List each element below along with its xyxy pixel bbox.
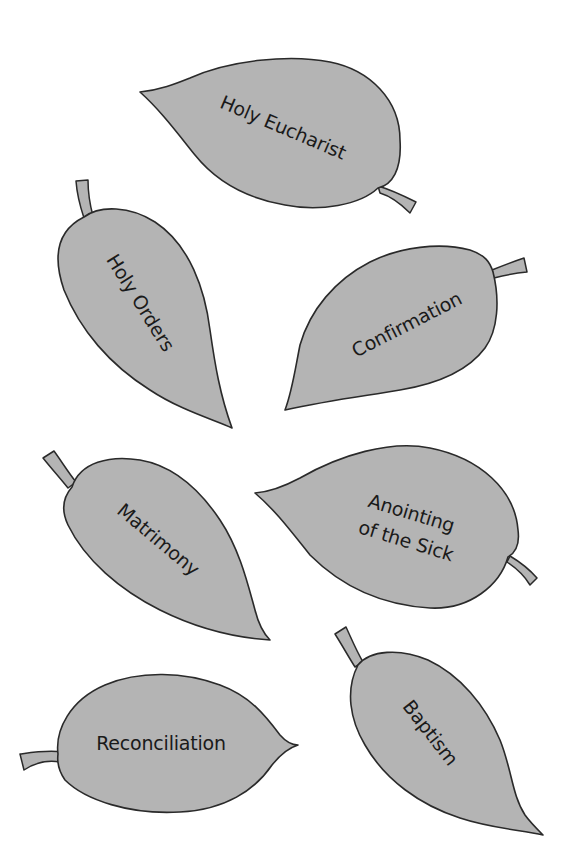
leaf-matrimony: Matrimony: [43, 451, 270, 640]
leaf-stem: [20, 751, 62, 770]
leaf-shape: [140, 59, 400, 208]
leaf-baptism: Baptism: [335, 627, 543, 835]
leaf-reconciliation: Reconciliation: [20, 674, 298, 812]
leaf-confirmation: Confirmation: [285, 246, 527, 410]
leaf-stem: [492, 258, 527, 278]
leaves-canvas: Holy Eucharist Holy Orders Confirmation …: [0, 0, 575, 859]
leaf-stem: [507, 556, 537, 585]
leaf-stem: [43, 451, 76, 488]
leaf-stem: [378, 186, 416, 213]
leaf-label: Reconciliation: [96, 732, 226, 754]
leaf-stem: [335, 627, 363, 667]
leaf-holy-orders: Holy Orders: [58, 180, 232, 428]
leaf-holy-eucharist: Holy Eucharist: [140, 59, 416, 213]
leaf-anointing-of-the-sick: Anointing of the Sick: [255, 446, 537, 608]
